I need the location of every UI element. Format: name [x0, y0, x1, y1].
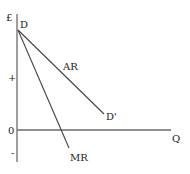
minus-sign: - [11, 147, 14, 158]
ar-label: AR [62, 61, 78, 72]
x-axis-label: Q [172, 133, 180, 144]
y-axis-label: £ [6, 12, 12, 23]
plus-sign: + [8, 72, 16, 83]
ar-demand-curve [18, 30, 104, 114]
origin-label: 0 [8, 125, 14, 136]
mr-label: MR [70, 152, 88, 163]
revenue-diagram: £ D AR D' + 0 Q - MR [0, 0, 190, 174]
d-label: D [20, 19, 28, 30]
d-prime-label: D' [106, 111, 117, 122]
